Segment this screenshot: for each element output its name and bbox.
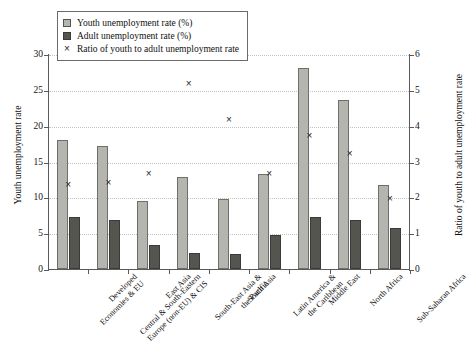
- y-axis-right-tick-mark: [410, 55, 414, 56]
- bar-adult-unemployment: [230, 254, 241, 269]
- x-axis-category-label: DevelopedEconomies & EU: [91, 272, 146, 327]
- legend-marker-icon: ×: [63, 45, 71, 53]
- bar-group: [97, 54, 120, 269]
- y-axis-right-tick-mark: [410, 234, 414, 235]
- legend-color-swatch: [63, 19, 71, 27]
- legend-item-label: Ratio of youth to adult unemployment rat…: [77, 44, 239, 54]
- y-axis-left-tick-label: 10: [34, 194, 44, 204]
- x-axis-tick-mark: [410, 270, 411, 274]
- plot-area: 051015202530 0123456 ×××××××××: [48, 55, 410, 270]
- y-axis-left-tick-label: 20: [34, 122, 44, 132]
- chart-legend: Youth unemployment rate (%)Adult unemplo…: [57, 11, 248, 61]
- ratio-marker: ×: [184, 79, 193, 88]
- y-axis-left-tick-label: 25: [34, 86, 44, 96]
- x-axis-category-label: North Africa: [368, 272, 405, 309]
- y-axis-right-tick-label: 3: [415, 158, 420, 168]
- bar-adult-unemployment: [149, 245, 160, 269]
- legend-item[interactable]: Youth unemployment rate (%): [63, 17, 239, 29]
- bar-group: [378, 54, 401, 269]
- y-axis-left-tick-mark: [44, 163, 48, 164]
- ratio-marker: ×: [265, 169, 274, 178]
- legend-item-label: Youth unemployment rate (%): [77, 18, 192, 28]
- y-axis-right-tick-mark: [410, 127, 414, 128]
- y-axis-left-tick-mark: [44, 234, 48, 235]
- y-axis-right-tick-label: 2: [415, 194, 420, 204]
- y-axis-left-tick-mark: [44, 198, 48, 199]
- y-axis-right-title: Ratio of youth to adult unemployment rat…: [454, 65, 464, 245]
- y-axis-right-tick-label: 1: [415, 229, 420, 239]
- legend-item[interactable]: ×Ratio of youth to adult unemployment ra…: [63, 43, 239, 55]
- x-axis-labels: DevelopedEconomies & EUCentral & South-E…: [48, 272, 410, 353]
- bar-group: [298, 54, 321, 269]
- y-axis-left-tick-label: 5: [38, 229, 43, 239]
- bar-youth-unemployment: [258, 174, 269, 269]
- y-axis-right-tick-mark: [410, 198, 414, 199]
- ratio-marker: ×: [144, 169, 153, 178]
- legend-color-swatch: [63, 32, 71, 40]
- bar-adult-unemployment: [270, 235, 281, 269]
- bar-youth-unemployment: [97, 146, 108, 269]
- y-axis-left-tick-mark: [44, 127, 48, 128]
- y-axis-right-tick-label: 0: [415, 265, 420, 275]
- ratio-marker: ×: [385, 194, 394, 203]
- y-axis-right-tick-label: 5: [415, 86, 420, 96]
- y-axis-right-tick-mark: [410, 163, 414, 164]
- bar-youth-unemployment: [338, 100, 349, 269]
- bar-adult-unemployment: [69, 217, 80, 269]
- y-axis-left-tick-label: 30: [34, 50, 44, 60]
- bar-adult-unemployment: [189, 253, 200, 269]
- bar-youth-unemployment: [57, 140, 68, 269]
- x-axis-line: [48, 269, 410, 270]
- legend-item[interactable]: Adult unemployment rate (%): [63, 30, 239, 42]
- ratio-marker: ×: [225, 115, 234, 124]
- ratio-marker: ×: [305, 131, 314, 140]
- y-axis-right-tick-label: 6: [415, 50, 420, 60]
- bar-group: [218, 54, 241, 269]
- ratio-marker: ×: [64, 180, 73, 189]
- bar-group: [258, 54, 281, 269]
- bar-youth-unemployment: [218, 199, 229, 269]
- y-axis-left-tick-label: 15: [34, 158, 44, 168]
- bar-group: [57, 54, 80, 269]
- y-axis-left-tick-mark: [44, 270, 48, 271]
- bar-youth-unemployment: [298, 68, 309, 269]
- y-axis-left-title: Youth unemployment rate: [13, 85, 23, 225]
- y-axis-left-tick-label: 0: [38, 265, 43, 275]
- bar-adult-unemployment: [310, 217, 321, 269]
- bar-group: [338, 54, 361, 269]
- bar-adult-unemployment: [109, 220, 120, 269]
- bar-group: [137, 54, 160, 269]
- y-axis-right-tick-label: 4: [415, 122, 420, 132]
- bar-adult-unemployment: [350, 220, 361, 269]
- x-axis-category-label: Sub-Saharan Africa: [415, 272, 468, 325]
- y-axis-right-tick-mark: [410, 91, 414, 92]
- y-axis-left-tick-mark: [44, 55, 48, 56]
- bar-adult-unemployment: [390, 228, 401, 269]
- legend-item-label: Adult unemployment rate (%): [77, 31, 191, 41]
- ratio-marker: ×: [104, 178, 113, 187]
- bar-youth-unemployment: [137, 201, 148, 269]
- bar-youth-unemployment: [177, 177, 188, 269]
- y-axis-left-tick-mark: [44, 91, 48, 92]
- ratio-marker: ×: [345, 149, 354, 158]
